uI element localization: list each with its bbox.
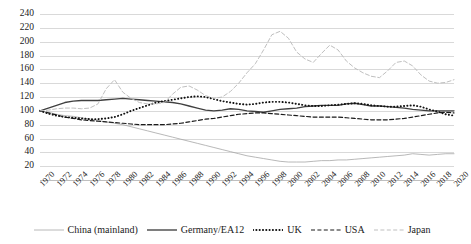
legend-swatch [311,226,341,234]
legend-label: China (mainland) [68,225,138,235]
y-axis-tick: 40 [25,147,35,157]
legend-swatch [374,226,404,234]
y-axis-tick: 200 [20,37,34,47]
y-axis-tick: 160 [20,64,34,74]
legend-swatch [147,226,177,234]
legend-label: USA [345,225,365,235]
y-axis-tick: 60 [25,134,35,144]
legend-label: UK [287,225,301,235]
legend-item-japan[interactable]: Japan [374,225,431,235]
y-axis-tick: 140 [20,78,34,88]
y-axis-tick: 220 [20,23,34,33]
y-axis-labels: 20406080100120140160180200220240 [0,0,38,180]
series-layer [40,14,454,180]
y-axis-tick: 20 [25,161,35,171]
series-line-usa [40,111,454,125]
legend-item-usa[interactable]: USA [311,225,365,235]
legend-item-uk[interactable]: UK [253,225,301,235]
y-axis-tick: 100 [20,106,34,116]
series-line-japan [40,31,454,111]
legend-label: Japan [408,225,431,235]
x-axis-labels: 1970197219741976197819801982198419861988… [40,182,454,216]
y-axis-tick: 180 [20,51,34,61]
plot-area [40,14,454,180]
legend-item-germany-ea12[interactable]: Germany/EA12 [147,225,244,235]
legend-swatch [34,226,64,234]
y-axis-tick: 120 [20,92,34,102]
legend-item-china-mainland[interactable]: China (mainland) [34,225,138,235]
y-axis-tick: 80 [25,120,35,130]
legend-swatch [253,226,283,234]
legend-label: Germany/EA12 [181,225,244,235]
chart-legend: China (mainland)Germany/EA12UKUSAJapan [0,219,464,241]
y-axis-tick: 240 [20,9,34,19]
x-axis-tick: 2020 [452,170,470,188]
